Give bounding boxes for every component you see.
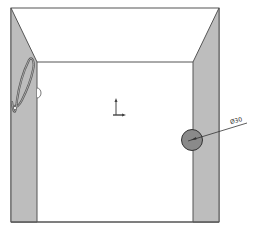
dimension-label: Ø30 [229,115,243,125]
cad-drawing-canvas: Ø30 [0,0,257,231]
cable-end-icon [13,106,16,109]
